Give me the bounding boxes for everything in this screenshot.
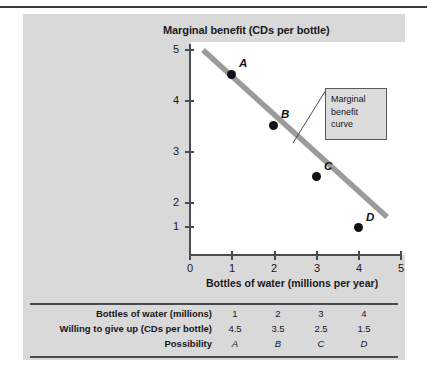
table-row: Bottles of water (millions) 1 2 3 4 — [23, 308, 405, 323]
x-label-3: 3 — [309, 262, 325, 274]
y-tick-1-hidden — [185, 226, 194, 228]
table-row: Willing to give up (CDs per bottle) 4.5 … — [23, 323, 405, 338]
plot-area — [191, 42, 405, 255]
table-cell: 2 — [261, 308, 295, 319]
table-cell: B — [261, 338, 295, 349]
callout-line-2: benefit — [331, 106, 386, 119]
table-rule-top — [30, 303, 398, 305]
table-cell: 1 — [218, 308, 252, 319]
data-point-B — [269, 121, 278, 130]
table-cell: 3.5 — [261, 323, 295, 334]
callout-line-3: curve — [331, 118, 386, 131]
y-label-1: 1 — [165, 220, 179, 232]
x-tick-4 — [358, 251, 360, 260]
data-table: Bottles of water (millions) 1 2 3 4 Will… — [23, 308, 405, 353]
x-axis-line — [189, 254, 401, 256]
callout-leader-line — [292, 88, 328, 144]
marginal-benefit-curve-callout: Marginal benefit curve — [325, 88, 387, 140]
table-cell: A — [218, 338, 252, 349]
x-label-2: 2 — [266, 262, 282, 274]
y-label-5: 5 — [165, 43, 179, 55]
table-row: Possibility A B C D — [23, 338, 405, 353]
y-tick-5 — [185, 49, 194, 51]
y-label-2: 2 — [165, 196, 179, 208]
table-cell: 4 — [347, 308, 381, 319]
data-point-label-A: A — [239, 57, 247, 69]
y-tick-3 — [185, 151, 194, 153]
table-cell: 2.5 — [304, 323, 338, 334]
table-cell: 1.5 — [347, 323, 381, 334]
figure-root: Marginal benefit (CDs per bottle) 5 4 3 … — [0, 0, 427, 373]
x-axis-title: Bottles of water (millions per year) — [206, 277, 378, 289]
data-point-A — [227, 70, 236, 79]
table-cell: D — [347, 338, 381, 349]
table-cell: 4.5 — [218, 323, 252, 334]
table-rule-bottom — [30, 356, 398, 358]
y-tick-4 — [185, 100, 194, 102]
table-cell: C — [304, 338, 338, 349]
x-label-4: 4 — [351, 262, 367, 274]
x-tick-1 — [231, 251, 233, 260]
x-label-5: 5 — [393, 262, 409, 274]
y-axis-line — [189, 44, 191, 256]
top-divider — [0, 6, 427, 8]
table-row-label: Possibility — [23, 338, 212, 349]
data-point-label-D: D — [366, 211, 374, 223]
data-point-C — [312, 172, 321, 181]
x-tick-3 — [316, 251, 318, 260]
data-point-label-B: B — [281, 108, 289, 120]
x-label-0: 0 — [182, 262, 198, 274]
x-tick-0 — [189, 251, 191, 260]
x-tick-2 — [274, 251, 276, 260]
table-cell: 3 — [304, 308, 338, 319]
data-point-D — [354, 223, 363, 232]
y-tick-2 — [185, 202, 194, 204]
callout-line-1: Marginal — [331, 93, 386, 106]
data-point-label-C: C — [324, 160, 332, 172]
table-row-label: Willing to give up (CDs per bottle) — [23, 323, 212, 334]
y-label-4: 4 — [165, 94, 179, 106]
chart-title: Marginal benefit (CDs per bottle) — [163, 24, 330, 36]
table-row-label: Bottles of water (millions) — [23, 308, 212, 319]
y-label-3: 3 — [165, 145, 179, 157]
x-tick-5 — [400, 251, 402, 260]
x-label-1: 1 — [224, 262, 240, 274]
